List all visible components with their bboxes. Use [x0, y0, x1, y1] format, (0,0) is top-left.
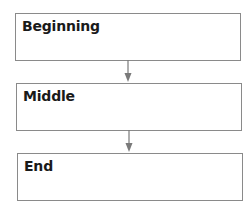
flow-box-end: End: [17, 153, 243, 201]
flow-box-label: Middle: [23, 88, 75, 104]
arrow-down-icon: [123, 60, 133, 84]
flow-box-beginning: Beginning: [15, 13, 241, 61]
flow-box-label: End: [24, 158, 53, 174]
flow-box-middle: Middle: [16, 83, 242, 131]
flow-box-label: Beginning: [22, 18, 100, 34]
arrow-down-icon: [124, 130, 134, 154]
